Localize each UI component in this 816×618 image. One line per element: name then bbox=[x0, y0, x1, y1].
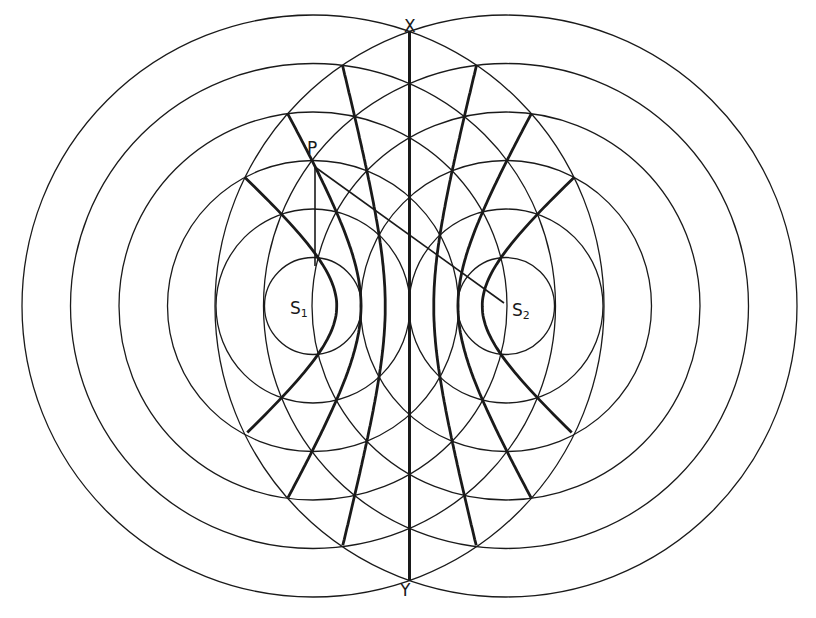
label-s1: S1 bbox=[290, 300, 308, 319]
interference-diagram: X Y P S1 S2 bbox=[0, 0, 816, 618]
hyperbola-order-1 bbox=[434, 65, 477, 545]
hyperbola-order-1 bbox=[343, 65, 386, 545]
wavefront-circle bbox=[458, 258, 555, 355]
wavefront-circle bbox=[168, 161, 459, 452]
wavefront-circle bbox=[361, 161, 652, 452]
label-y: Y bbox=[400, 582, 410, 599]
label-s2: S2 bbox=[512, 302, 530, 321]
diagram-canvas bbox=[0, 0, 816, 618]
label-p: P bbox=[307, 140, 317, 157]
wavefront-circle bbox=[119, 112, 507, 500]
wavefront-circle bbox=[265, 258, 362, 355]
wavefront-circle bbox=[312, 112, 700, 500]
label-x: X bbox=[404, 18, 416, 35]
